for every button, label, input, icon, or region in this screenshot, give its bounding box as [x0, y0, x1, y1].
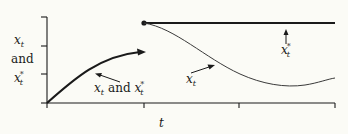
- y-label-sub-t2: t: [20, 78, 24, 87]
- svg-text:x*t: x*t: [14, 70, 24, 87]
- y-label-and: and: [11, 52, 34, 66]
- ann-both-sub1: t: [101, 88, 105, 97]
- svg-text:xt: xt: [14, 33, 25, 49]
- axes: [41, 17, 335, 108]
- annotation-xstar: x*t: [281, 42, 291, 59]
- arrowhead-icon: [137, 49, 146, 56]
- ann-xstar-sub: t: [287, 50, 291, 59]
- y-label-sub-t: t: [21, 40, 25, 49]
- annotation-xt: xt: [186, 72, 197, 88]
- x-axis-label: t: [159, 116, 164, 130]
- y-axis-label: xt and x*t: [11, 33, 34, 87]
- ann-xt-sub: t: [193, 79, 197, 88]
- arrow-both-head-icon: [95, 73, 102, 78]
- ann-both-sub2: t: [140, 88, 144, 97]
- curve-xt: [144, 23, 335, 86]
- arrow-xt-head-icon: [208, 65, 216, 70]
- diagram-canvas: xt and x*t t xtandx*t xt x*t: [0, 0, 348, 134]
- ann-both-and: and: [108, 81, 131, 95]
- arrow-xstar-head-icon: [284, 29, 289, 35]
- curve-xt-and-xstar: [47, 52, 140, 103]
- annotation-both: xtandx*t: [94, 80, 144, 97]
- arrow-xt-shaft: [191, 67, 209, 73]
